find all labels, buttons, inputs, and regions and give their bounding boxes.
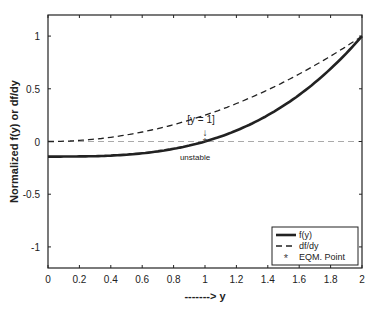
x-tick-label: 1.4	[261, 274, 275, 285]
annotation-unstable: unstable	[180, 153, 211, 162]
y-tick-label: -1	[31, 242, 40, 253]
x-axis-label: -------> y	[184, 290, 226, 302]
y-tick-label: 0	[34, 137, 40, 148]
y-tick-label: 0.5	[26, 84, 40, 95]
legend-eqm-label: EQM. Point	[299, 252, 346, 262]
y-tick-label: -0.5	[23, 189, 41, 200]
x-tick-label: 1	[202, 274, 208, 285]
y-axis-label: Normalized f(y) or df/dy	[8, 79, 20, 203]
x-tick-label: 0.6	[135, 274, 149, 285]
legend-dfdy-label: df/dy	[299, 241, 319, 251]
x-tick-label: 1.6	[292, 274, 306, 285]
x-tick-label: 0.4	[104, 274, 118, 285]
x-tick-label: 1.2	[229, 274, 243, 285]
legend-eqm-swatch: *	[284, 252, 289, 264]
y-tick-label: 1	[34, 31, 40, 42]
x-tick-label: 0.2	[72, 274, 86, 285]
annotation-arrow: ↓	[203, 127, 208, 138]
x-tick-label: 2	[359, 274, 365, 285]
x-tick-label: 1.8	[324, 274, 338, 285]
x-tick-label: 0.8	[167, 274, 181, 285]
chart: 00.20.40.60.811.21.41.61.82-1-0.500.51--…	[0, 0, 378, 313]
legend-fy-label: f(y)	[299, 230, 312, 240]
annotation-y1: [y = 1]	[187, 114, 215, 125]
x-tick-label: 0	[45, 274, 51, 285]
